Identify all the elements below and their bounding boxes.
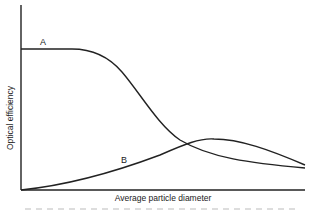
curve-a — [21, 49, 305, 168]
curve-a-label: A — [40, 37, 46, 47]
x-axis-title: Average particle diameter — [115, 193, 212, 203]
chart: A B Average particle diameter Optical ef… — [0, 0, 312, 210]
curve-b — [21, 139, 305, 190]
y-axis-title: Optical efficiency — [5, 85, 15, 150]
curve-b-label: B — [121, 155, 127, 165]
